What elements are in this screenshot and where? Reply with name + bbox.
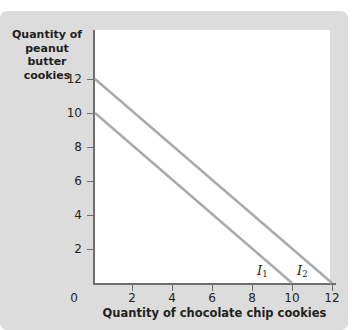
y-axis-title-line-1: Quantity of (12, 28, 82, 41)
y-axis-title: Quantity ofpeanut buttercookies (6, 28, 88, 82)
curve-label-i1: I1 (257, 264, 268, 279)
curve-label-i1-subscript: 1 (262, 269, 267, 279)
x-axis-title: Quantity of chocolate chip cookies (93, 307, 336, 320)
budget-line-i2 (95, 79, 332, 283)
curve-label-i2-subscript: 2 (302, 269, 307, 279)
budget-line-i1 (95, 113, 292, 283)
curve-label-i2: I2 (297, 264, 308, 279)
y-axis-title-line-3: cookies (24, 69, 71, 82)
y-axis-title-line-2: peanut butter (25, 42, 69, 69)
budget-constraint-chart-figure: 12 10 8 6 4 2 0 2 4 6 8 10 12 I1 I2 Quan… (0, 0, 352, 330)
